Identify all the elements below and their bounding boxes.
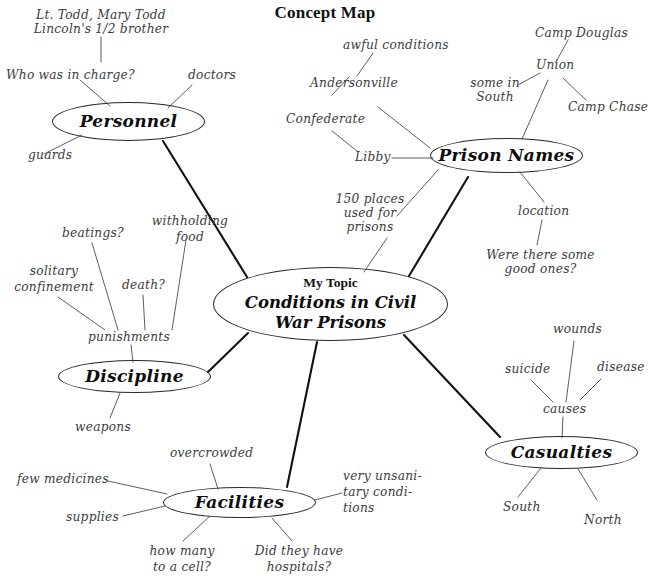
edge-facilities-hospitals bbox=[272, 518, 292, 541]
leaf-solitary-line-1: solitary bbox=[10, 264, 98, 278]
edge-facilities-overcrowded bbox=[210, 464, 218, 489]
leaf-hospitals-line-2: hospitals? bbox=[244, 560, 354, 574]
leaf-beatings: beatings? bbox=[62, 226, 124, 240]
leaf-hospitals-line-1: Did they have bbox=[244, 544, 354, 558]
leaf-punishments: punishments bbox=[88, 330, 170, 344]
leaf-south: South bbox=[503, 500, 541, 514]
leaf-unsanitary-line-1: very unsani- bbox=[343, 469, 422, 483]
leaf-good-ones-line-1: Were there some bbox=[478, 248, 603, 262]
node-personnel[interactable]: Personnel bbox=[52, 102, 205, 141]
leaf-lt-todd-line-2: Lincoln's 1/2 brother bbox=[26, 22, 176, 36]
node-prison-names-label: Prison Names bbox=[439, 147, 575, 165]
leaf-wounds: wounds bbox=[553, 322, 602, 336]
edge-punishments-withholding bbox=[172, 240, 186, 330]
leaf-overcrowded: overcrowded bbox=[170, 446, 253, 460]
leaf-suicide: suicide bbox=[505, 362, 551, 376]
leaf-some-in-south-line-1: some in bbox=[466, 76, 524, 90]
edge-places-center bbox=[364, 238, 387, 272]
edge-causes-suicide bbox=[531, 380, 553, 402]
node-facilities-label: Facilities bbox=[195, 494, 285, 512]
leaf-some-in-south-line-2: South bbox=[466, 90, 524, 104]
edge-facilities-howmany bbox=[183, 516, 210, 541]
center-topic-line-1: Conditions in Civil bbox=[245, 293, 416, 312]
edge-causes-disease bbox=[580, 379, 601, 400]
leaf-camp-chase: Camp Chase bbox=[568, 100, 648, 114]
leaf-andersonville: Andersonville bbox=[310, 76, 398, 90]
edge-facilities-unsanitary bbox=[315, 493, 342, 500]
edge-casualties-north bbox=[578, 469, 597, 500]
leaf-unsanitary-line-2: tary condi- bbox=[343, 485, 412, 499]
edge-confederate-libby bbox=[332, 131, 357, 151]
leaf-lt-todd-line-1: Lt. Todd, Mary Todd bbox=[26, 8, 176, 22]
leaf-disease: disease bbox=[597, 360, 645, 374]
leaf-unsanitary-line-3: tions bbox=[343, 501, 375, 515]
leaf-libby: Libby bbox=[355, 150, 391, 164]
edge-casualties-causes bbox=[562, 417, 563, 438]
edge-causes-wounds bbox=[566, 341, 574, 402]
leaf-how-many-line-1: how many bbox=[134, 544, 230, 558]
leaf-weapons: weapons bbox=[75, 420, 131, 434]
node-discipline[interactable]: Discipline bbox=[58, 360, 211, 393]
leaf-death: death? bbox=[122, 278, 165, 292]
leaf-150-places-line-1: 150 places bbox=[325, 192, 415, 206]
leaf-supplies: supplies bbox=[66, 510, 119, 524]
center-topic-line-2: War Prisons bbox=[275, 313, 386, 332]
edge-location-goodones bbox=[537, 220, 542, 245]
leaf-doctors: doctors bbox=[188, 68, 236, 82]
leaf-north: North bbox=[584, 513, 622, 527]
edge-center-prisonnames bbox=[409, 177, 468, 276]
edge-andersonville-awful bbox=[357, 53, 373, 76]
node-center-topic[interactable]: My Topic Conditions in Civil War Prisons bbox=[213, 267, 448, 341]
leaf-location: location bbox=[518, 204, 569, 218]
node-facilities[interactable]: Facilities bbox=[163, 487, 316, 518]
edge-prisonnames-union bbox=[522, 80, 548, 139]
edge-center-personnel bbox=[163, 141, 247, 277]
edge-casualties-south bbox=[518, 468, 541, 497]
leaf-how-many-line-2: to a cell? bbox=[134, 560, 230, 574]
leaf-guards: guards bbox=[28, 148, 72, 162]
node-discipline-label: Discipline bbox=[85, 368, 184, 386]
edge-prisonnames-location bbox=[520, 172, 544, 202]
node-casualties[interactable]: Casualties bbox=[485, 436, 638, 469]
edge-center-facilities bbox=[287, 342, 317, 487]
leaf-confederate: Confederate bbox=[286, 112, 365, 126]
edge-facilities-supplies bbox=[123, 506, 165, 516]
leaf-awful-conditions: awful conditions bbox=[343, 38, 449, 52]
edge-facilities-fewmedicines bbox=[108, 481, 167, 494]
leaf-union: Union bbox=[536, 58, 574, 72]
concept-map-canvas: Concept Map Personnel Prison Names My To… bbox=[0, 0, 650, 580]
leaf-solitary-line-2: confinement bbox=[10, 280, 98, 294]
leaf-who-was-in-charge: Who was in charge? bbox=[6, 68, 135, 82]
leaf-150-places-line-3: prisons bbox=[325, 220, 415, 234]
node-casualties-label: Casualties bbox=[511, 444, 613, 462]
edge-center-discipline bbox=[208, 333, 248, 372]
leaf-causes: causes bbox=[543, 402, 586, 416]
leaf-withholding-line-1: withholding bbox=[148, 214, 232, 228]
leaf-150-places-line-2: used for bbox=[325, 206, 415, 220]
edge-punishments-solitary bbox=[58, 297, 105, 330]
leaf-few-medicines: few medicines bbox=[17, 472, 109, 486]
edge-center-casualties bbox=[404, 335, 500, 437]
node-personnel-label: Personnel bbox=[80, 113, 178, 131]
leaf-withholding-line-2: food bbox=[148, 230, 232, 244]
center-eyebrow-label: My Topic bbox=[303, 276, 357, 290]
edge-punishments-death bbox=[143, 295, 145, 330]
leaf-good-ones-line-2: good ones? bbox=[478, 262, 603, 276]
node-prison-names[interactable]: Prison Names bbox=[430, 138, 583, 173]
edge-prisonnames-andersonville bbox=[378, 107, 430, 148]
leaf-camp-douglas: Camp Douglas bbox=[535, 26, 628, 40]
edge-union-campchase bbox=[563, 78, 586, 100]
edge-discipline-weapons bbox=[110, 393, 120, 418]
